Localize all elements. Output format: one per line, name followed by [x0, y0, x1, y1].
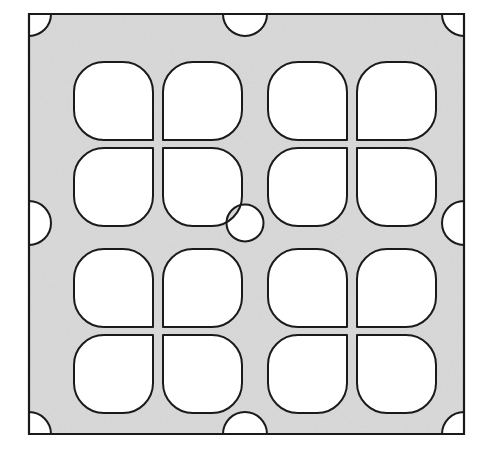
panel-drawing: [0, 0, 486, 450]
perforated-panel-figure: [0, 0, 486, 450]
